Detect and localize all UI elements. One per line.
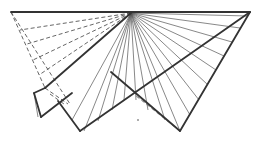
speck-mark: [137, 119, 139, 121]
outline: [11, 12, 250, 131]
fan-fold-diagram: [0, 0, 264, 142]
diagram-canvas: [0, 0, 264, 142]
dashed-folds: [11, 12, 180, 131]
